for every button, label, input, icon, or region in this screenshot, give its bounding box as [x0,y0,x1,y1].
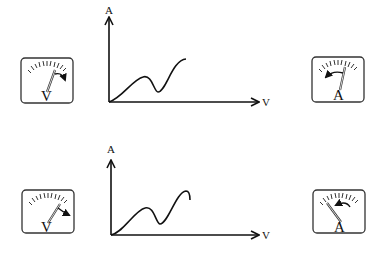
meter-label: V [41,88,52,104]
x-axis-label: V [262,229,270,241]
meter-label: V [41,219,52,235]
top-ammeter: A [312,57,364,103]
diagram-canvas: V A A V [0,0,385,256]
bottom-iv-graph: A V [107,143,270,241]
x-axis-label: V [262,96,270,108]
bottom-voltmeter: V [22,190,74,235]
bottom-ammeter: A [313,190,365,235]
iv-curve [111,191,190,235]
top-voltmeter: V [21,58,73,104]
meter-label: A [333,87,344,103]
top-iv-graph: A V [105,4,270,108]
y-axis-label: A [105,4,113,16]
iv-curve [109,59,186,102]
y-axis-label: A [107,143,115,155]
meter-label: A [334,219,345,235]
